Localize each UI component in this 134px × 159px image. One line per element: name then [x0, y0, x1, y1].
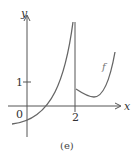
- figure-caption: (e): [60, 140, 74, 151]
- x-axis-label: x: [124, 100, 131, 113]
- axes: [8, 15, 121, 137]
- y-tick-label-1: 1: [16, 76, 23, 89]
- function-label: f: [101, 61, 108, 72]
- x-tick-label-2: 2: [72, 111, 79, 124]
- curve-right-branch: [76, 52, 115, 97]
- y-axis-label: y: [20, 7, 28, 20]
- origin-label: 0: [16, 108, 23, 121]
- function-graph: y x 0 2 1 f (e): [0, 0, 134, 159]
